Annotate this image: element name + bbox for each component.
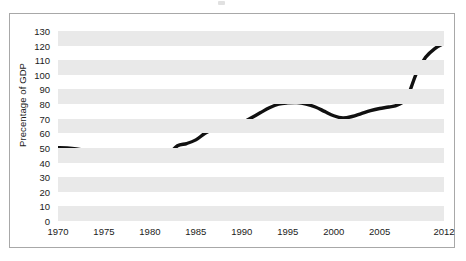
y-axis-tick-labels: 1301201101009080706050403020100: [10, 31, 54, 221]
y-axis-tick: 60: [39, 128, 50, 139]
x-axis-tick: 2012: [433, 226, 454, 237]
y-axis-tick: 0: [45, 216, 50, 227]
y-axis-tick: 40: [39, 157, 50, 168]
grid-band: [58, 206, 444, 221]
y-axis-tick: 90: [39, 84, 50, 95]
grid-band: [58, 119, 444, 134]
x-axis-tick: 1990: [231, 226, 252, 237]
y-axis-tick: 110: [35, 55, 50, 66]
x-axis-tick: 1995: [277, 226, 298, 237]
x-axis-tick: 1980: [139, 226, 160, 237]
y-axis-tick: 30: [39, 172, 50, 183]
chart-screenshot: Precentage of GDP 1301201101009080706050…: [0, 0, 466, 261]
y-axis-tick: 120: [34, 40, 50, 51]
plot-area: [58, 31, 444, 221]
chart-frame: Precentage of GDP 1301201101009080706050…: [9, 13, 455, 248]
page-artifact-mark: [218, 1, 225, 5]
grid-band: [58, 31, 444, 46]
x-axis-tick: 1975: [93, 226, 114, 237]
x-axis-tick-labels: 197019751980198519901995200020052012: [58, 226, 444, 242]
grid-band: [58, 89, 444, 104]
grid-band: [58, 177, 444, 192]
x-axis-tick: 2000: [323, 226, 344, 237]
x-axis-tick: 2005: [369, 226, 390, 237]
x-axis-tick: 1970: [47, 226, 68, 237]
y-axis-tick: 80: [39, 99, 50, 110]
x-axis-tick: 1985: [185, 226, 206, 237]
y-axis-tick: 10: [39, 201, 50, 212]
x-axis-line: [58, 221, 444, 222]
y-axis-tick: 70: [39, 113, 50, 124]
y-axis-tick: 100: [34, 69, 50, 80]
grid-band: [58, 148, 444, 163]
y-axis-tick: 20: [39, 186, 50, 197]
y-axis-tick: 130: [34, 26, 50, 37]
grid-band: [58, 60, 444, 75]
y-axis-tick: 50: [39, 142, 50, 153]
